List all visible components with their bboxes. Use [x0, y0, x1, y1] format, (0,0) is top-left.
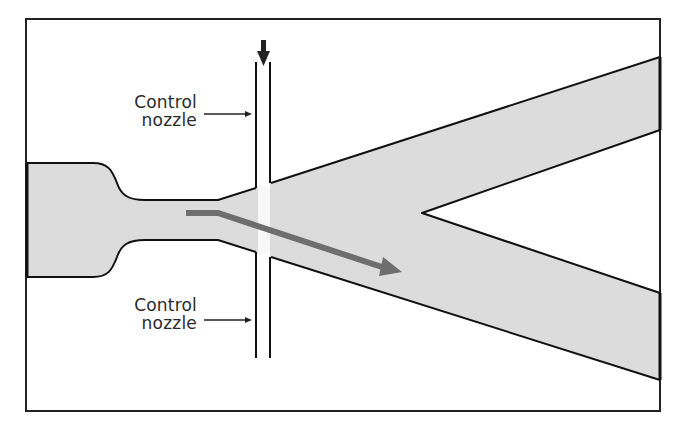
- label-line-1: Control: [87, 296, 197, 314]
- label-line-2: nozzle: [87, 111, 197, 129]
- label-line-1: Control: [87, 93, 197, 111]
- control-nozzle-gap: [258, 186, 270, 254]
- fluidic-amplifier-diagram: [0, 0, 679, 433]
- control-nozzle-label-top: Control nozzle: [87, 93, 197, 129]
- control-nozzle-label-bottom: Control nozzle: [87, 296, 197, 332]
- label-line-2: nozzle: [87, 314, 197, 332]
